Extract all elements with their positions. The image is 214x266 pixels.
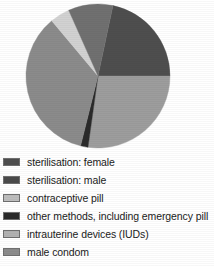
legend-swatch-sterilisation-female	[3, 158, 20, 166]
legend-label-contraceptive-pill: contraceptive pill	[27, 192, 103, 204]
pie-slice-group	[26, 4, 170, 148]
pie-svg	[0, 0, 214, 152]
legend-label-sterilisation-female: sterilisation: female	[27, 156, 115, 168]
legend-swatch-other-methods	[3, 212, 20, 220]
chart-legend: sterilisation: female sterilisation: mal…	[0, 153, 214, 266]
pie-chart-figure: sterilisation: female sterilisation: mal…	[0, 0, 214, 266]
pie-slice[interactable]	[88, 76, 170, 148]
legend-label-sterilisation-male: sterilisation: male	[27, 174, 106, 186]
legend-swatch-iuds	[3, 230, 20, 238]
legend-label-male-condom: male condom	[27, 246, 89, 258]
legend-swatch-male-condom	[3, 248, 20, 256]
legend-item-sterilisation-female[interactable]: sterilisation: female	[0, 153, 214, 171]
legend-swatch-sterilisation-male	[3, 176, 20, 184]
pie-plot-area	[0, 0, 214, 152]
legend-label-iuds: intrauterine devices (IUDs)	[27, 228, 149, 240]
legend-label-other-methods: other methods, including emergency pill	[27, 210, 208, 222]
legend-item-sterilisation-male[interactable]: sterilisation: male	[0, 171, 214, 189]
legend-item-male-condom[interactable]: male condom	[0, 243, 214, 261]
legend-item-iuds[interactable]: intrauterine devices (IUDs)	[0, 225, 214, 243]
legend-swatch-contraceptive-pill	[3, 194, 20, 202]
legend-item-contraceptive-pill[interactable]: contraceptive pill	[0, 189, 214, 207]
legend-item-other-methods[interactable]: other methods, including emergency pill	[0, 207, 214, 225]
